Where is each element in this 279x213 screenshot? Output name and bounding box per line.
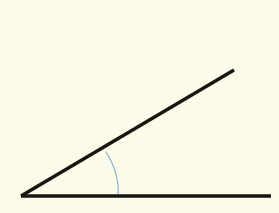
diagram-background [0, 0, 279, 213]
angle-diagram-figure: Angle formed by two rays [0, 0, 279, 213]
angle-diagram-canvas: Angle formed by two rays [0, 0, 279, 213]
